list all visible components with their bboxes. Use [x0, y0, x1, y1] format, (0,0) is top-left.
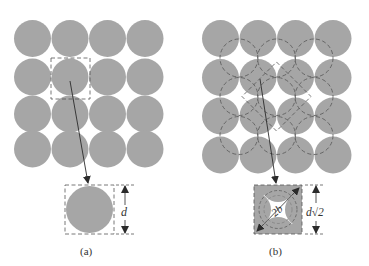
panel-b: 2b d√2 (b): [202, 20, 352, 258]
dimension-label-d-root2: d√2: [306, 206, 324, 218]
dimension-label-d: d: [121, 205, 128, 219]
caption-b: (b): [269, 245, 282, 258]
interstitial-dashed-circles: [220, 39, 333, 155]
unit-cell-inset-a: [65, 185, 114, 234]
fiber-grid-b: [202, 20, 352, 174]
fiber-grid-a: [14, 20, 164, 168]
panel-a: d (a): [14, 20, 164, 258]
caption-a: (a): [80, 245, 93, 258]
fiber-packing-diagram: d (a): [0, 0, 369, 266]
